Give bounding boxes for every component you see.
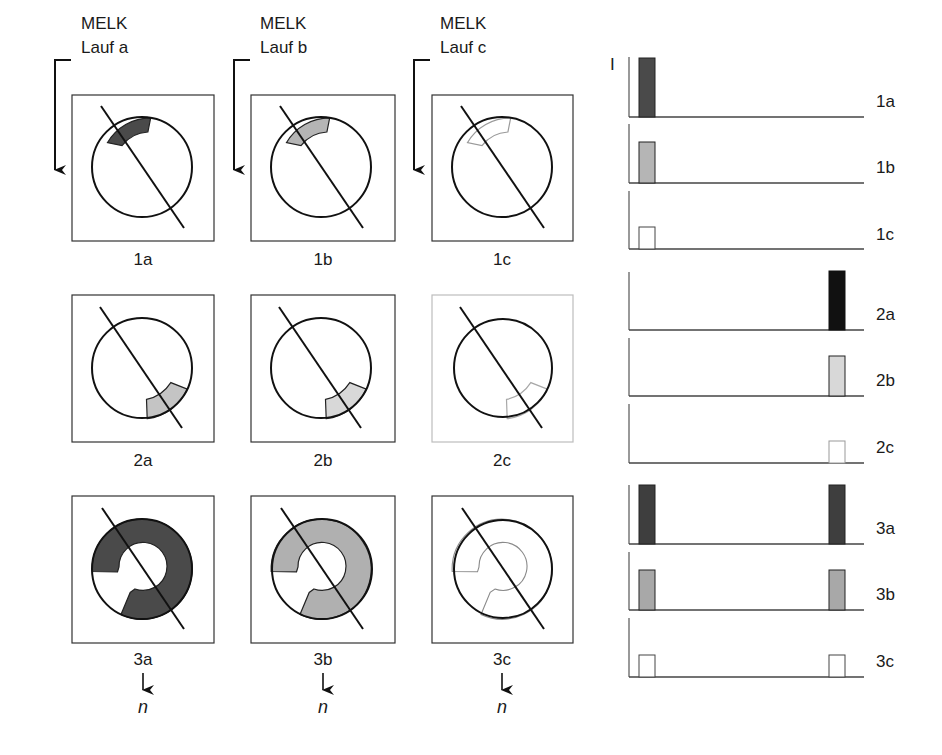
panel-3c-schematic — [432, 496, 573, 643]
column-c-title: MELK — [440, 15, 486, 33]
panel-1c-schematic — [432, 95, 573, 241]
intensity-chart — [629, 57, 864, 677]
panel-caption-3c: 3c — [472, 650, 532, 670]
trace-3b — [629, 552, 864, 610]
panel-caption-1b: 1b — [293, 250, 353, 270]
trace-2a — [629, 271, 864, 330]
continuation-n-b: n — [308, 697, 338, 718]
column-c-subtitle: Lauf c — [440, 39, 486, 57]
panel-caption-3b: 3b — [293, 650, 353, 670]
trace-1a — [629, 57, 864, 117]
trace-label-2b: 2b — [876, 372, 895, 390]
trace-1c — [629, 191, 864, 249]
panel-caption-1c: 1c — [472, 250, 532, 270]
bar-1a-peak1 — [639, 58, 655, 117]
trace-2c — [629, 404, 864, 463]
column-b-title: MELK — [260, 15, 306, 33]
bar-3b-peak2 — [829, 570, 845, 610]
column-b-subtitle: Lauf b — [260, 39, 307, 57]
bar-3c-peak1 — [639, 655, 655, 677]
bar-3a-peak1 — [639, 485, 655, 544]
bar-2a-peak2 — [829, 271, 845, 330]
panel-caption-3a: 3a — [113, 650, 173, 670]
trace-1b — [629, 124, 864, 183]
trace-label-2a: 2a — [876, 306, 895, 324]
continuation-n-c: n — [487, 697, 517, 718]
panel-1b-schematic — [251, 95, 395, 241]
bar-3c-peak2 — [829, 655, 845, 677]
panel-caption-2b: 2b — [293, 451, 353, 471]
column-a-title: MELK — [81, 15, 127, 33]
trace-label-1b: 1b — [876, 159, 895, 177]
panel-2b-schematic — [251, 295, 395, 442]
panel-3a-schematic — [72, 496, 214, 643]
trace-3a — [629, 485, 864, 544]
run-a-arrow-icon — [55, 60, 71, 170]
bar-2c-peak2 — [829, 441, 845, 463]
bar-3a-peak2 — [829, 485, 845, 544]
trace-label-3a: 3a — [876, 520, 895, 538]
run-b-arrow-icon — [234, 60, 250, 170]
trace-3c — [629, 618, 864, 677]
panel-2a-schematic — [72, 295, 214, 442]
trace-label-1a: 1a — [876, 93, 895, 111]
diagram-canvas — [0, 0, 942, 755]
bar-3b-peak1 — [639, 570, 655, 610]
panel-3b-schematic — [251, 496, 395, 643]
trace-label-2c: 2c — [876, 439, 894, 457]
bar-2b-peak2 — [829, 356, 845, 396]
trace-label-1c: 1c — [876, 226, 894, 244]
trace-2b — [629, 338, 864, 396]
bar-1c-peak1 — [639, 227, 655, 249]
panel-2c-schematic — [432, 295, 573, 442]
panel-1a-schematic — [72, 95, 214, 241]
trace-label-3b: 3b — [876, 586, 895, 604]
continuation-n-a: n — [128, 697, 158, 718]
column-a-subtitle: Lauf a — [81, 39, 128, 57]
trace-label-3c: 3c — [876, 653, 894, 671]
bar-1b-peak1 — [639, 142, 655, 183]
panel-caption-2c: 2c — [472, 451, 532, 471]
panel-caption-2a: 2a — [113, 451, 173, 471]
chart-y-axis-label: I — [610, 56, 615, 74]
run-c-arrow-icon — [414, 60, 430, 170]
panel-caption-1a: 1a — [113, 250, 173, 270]
